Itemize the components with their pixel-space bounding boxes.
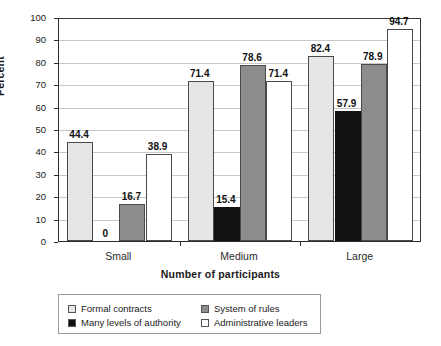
- bar-value-label: 16.7: [112, 192, 150, 202]
- y-axis-tick-label: 30: [20, 170, 46, 180]
- y-axis-tick-mark: [54, 63, 58, 64]
- y-axis-tick-label: 10: [20, 215, 46, 225]
- bar: [240, 65, 266, 241]
- bar-value-label: 71.4: [259, 69, 297, 79]
- legend-swatch-many-levels-of-authority: [68, 319, 76, 327]
- y-axis-tick-label: 100: [20, 13, 46, 23]
- y-axis-tick-mark: [54, 220, 58, 221]
- y-axis-title: Percent: [0, 56, 6, 96]
- legend-swatch-formal-contracts: [68, 305, 76, 313]
- y-axis-tick-mark: [54, 40, 58, 41]
- bar-value-label: 15.4: [207, 195, 245, 205]
- bar-value-label: 57.9: [328, 99, 366, 109]
- y-axis-tick-mark: [54, 152, 58, 153]
- x-axis-group-label: Large: [299, 250, 420, 262]
- legend-item-administrative-leaders: Administrative leaders: [201, 317, 307, 328]
- y-axis-tick-label: 40: [20, 147, 46, 157]
- legend-label-formal-contracts: Formal contracts: [81, 303, 152, 314]
- gridline: [59, 40, 420, 41]
- legend-swatch-administrative-leaders: [201, 319, 209, 327]
- bar-value-label: 38.9: [139, 142, 177, 152]
- y-axis-tick-label: 90: [20, 35, 46, 45]
- y-axis-tick-mark: [54, 175, 58, 176]
- y-axis-tick-label: 50: [20, 125, 46, 135]
- y-axis-tick-label: 20: [20, 192, 46, 202]
- bar: [67, 142, 93, 241]
- x-axis-group-label: Medium: [179, 250, 300, 262]
- bar: [188, 81, 214, 241]
- legend-label-administrative-leaders: Administrative leaders: [214, 317, 307, 328]
- x-axis-group-tick: [180, 241, 181, 246]
- bar: [361, 64, 387, 241]
- bar: [214, 207, 240, 241]
- bar-value-label: 78.9: [354, 52, 392, 62]
- bar-chart: Percent 010203040506070809010044.4016.73…: [0, 0, 441, 346]
- y-axis-tick-mark: [54, 242, 58, 243]
- y-axis-tick-mark: [54, 197, 58, 198]
- legend-swatch-system-of-rules: [201, 305, 209, 313]
- bar-value-label: 44.4: [60, 130, 98, 140]
- bar: [308, 56, 334, 241]
- bar-value-label: 71.4: [181, 69, 219, 79]
- legend-item-system-of-rules: System of rules: [201, 303, 279, 314]
- legend: Formal contracts System of rules Many le…: [58, 294, 321, 334]
- y-axis-tick-label: 60: [20, 103, 46, 113]
- legend-item-formal-contracts: Formal contracts: [68, 303, 152, 314]
- y-axis-tick-mark: [54, 130, 58, 131]
- y-axis-tick-mark: [54, 18, 58, 19]
- bar: [335, 111, 361, 241]
- bar-value-label: 0: [86, 229, 124, 239]
- plot-frame-top: [58, 18, 420, 19]
- x-axis-title: Number of participants: [0, 268, 441, 280]
- y-axis-tick-label: 0: [20, 237, 46, 247]
- bar-value-label: 82.4: [301, 44, 339, 54]
- y-axis-tick-mark: [54, 108, 58, 109]
- plot-frame-right: [420, 18, 421, 242]
- y-axis-tick-mark: [54, 85, 58, 86]
- legend-label-system-of-rules: System of rules: [214, 303, 279, 314]
- y-axis-tick-label: 70: [20, 80, 46, 90]
- x-axis-group-label: Small: [58, 250, 179, 262]
- legend-label-many-levels-of-authority: Many levels of authority: [81, 317, 181, 328]
- y-axis-tick-label: 80: [20, 58, 46, 68]
- legend-item-many-levels-of-authority: Many levels of authority: [68, 317, 181, 328]
- bar-value-label: 94.7: [380, 17, 418, 27]
- bar: [266, 81, 292, 241]
- x-axis-group-tick: [300, 241, 301, 246]
- bar-value-label: 78.6: [233, 53, 271, 63]
